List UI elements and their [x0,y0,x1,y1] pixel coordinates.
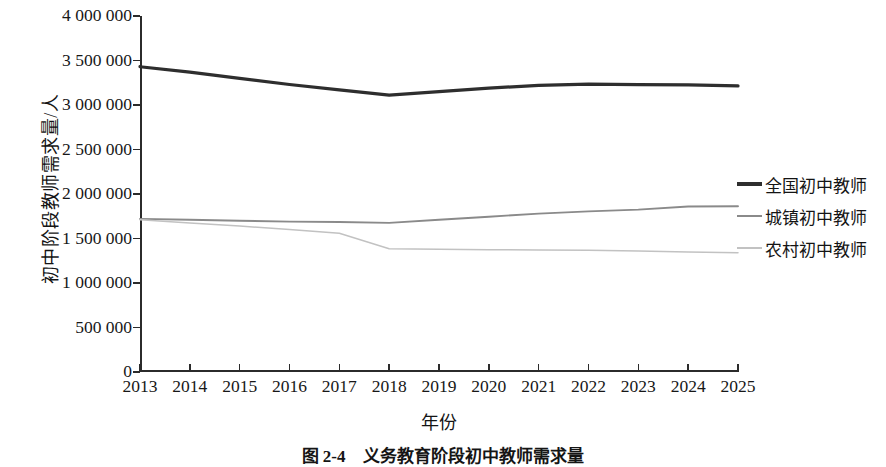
y-tick-mark [133,149,140,151]
y-tick-mark [133,15,140,17]
x-tick-label: 2017 [322,378,357,396]
series-lines [140,16,738,372]
y-tick-label: 3 000 000 [14,96,132,114]
x-tick-mark [339,364,341,372]
y-tick-mark [133,104,140,106]
legend-swatch [737,182,762,185]
figure-caption-text: 义务教育阶段初中教师需求量 [363,447,584,466]
legend-item[interactable]: 城镇初中教师 [737,200,886,232]
figure-caption-number: 图 2-4 [302,447,346,466]
series-line [140,67,738,95]
x-tick-mark [289,364,291,372]
x-tick-mark [588,364,590,372]
x-tick-mark [139,364,141,372]
legend-swatch [737,215,762,217]
x-tick-mark [239,364,241,372]
plot-area [140,16,738,372]
x-tick-label: 2021 [521,378,556,396]
y-tick-label: 500 000 [14,319,132,337]
x-tick-mark [737,364,739,372]
x-tick-mark [189,364,191,372]
y-tick-mark [133,238,140,240]
x-tick-label: 2019 [422,378,457,396]
x-tick-label: 2013 [123,378,158,396]
legend-label: 全国初中教师 [765,172,867,197]
y-tick-label: 3 500 000 [14,52,132,70]
legend-swatch [737,247,762,249]
x-tick-mark [388,364,390,372]
x-axis-tick-labels: 2013201420152016201720182019202020212022… [140,378,738,404]
y-tick-label: 2 000 000 [14,185,132,203]
y-tick-label: 1 500 000 [14,230,132,248]
x-tick-label: 2015 [222,378,257,396]
x-tick-mark [538,364,540,372]
y-tick-label: 1 000 000 [14,274,132,292]
series-line [140,220,738,253]
x-axis-title: 年份 [140,408,738,434]
y-tick-label: 0 [14,363,132,381]
y-tick-mark [133,60,140,62]
x-tick-label: 2014 [172,378,207,396]
series-line [140,206,738,223]
y-tick-mark [133,193,140,195]
x-tick-label: 2025 [721,378,756,396]
y-tick-label: 2 500 000 [14,141,132,159]
x-tick-mark [638,364,640,372]
legend-item[interactable]: 农村初中教师 [737,232,886,264]
x-tick-label: 2024 [671,378,706,396]
y-tick-mark [133,282,140,284]
y-axis-tick-labels: 4 000 0003 500 0003 000 0002 500 0002 00… [14,0,132,462]
x-tick-label: 2022 [571,378,606,396]
y-tick-mark [133,327,140,329]
legend-label: 城镇初中教师 [765,204,867,229]
x-tick-mark [438,364,440,372]
legend-label: 农村初中教师 [765,236,867,261]
x-tick-label: 2016 [272,378,307,396]
x-tick-label: 2020 [471,378,506,396]
x-tick-mark [687,364,689,372]
legend-item[interactable]: 全国初中教师 [737,168,886,200]
y-tick-label: 4 000 000 [14,7,132,25]
legend: 全国初中教师城镇初中教师农村初中教师 [737,168,886,264]
figure-caption: 图 2-4义务教育阶段初中教师需求量 [0,442,886,467]
x-tick-mark [488,364,490,372]
x-tick-label: 2018 [372,378,407,396]
x-tick-label: 2023 [621,378,656,396]
